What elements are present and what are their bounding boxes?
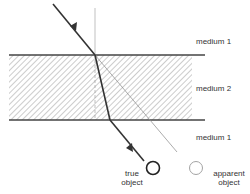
label-medium-middle: medium 2: [196, 84, 232, 93]
label-medium-bottom: medium 1: [196, 133, 232, 142]
exit-ray: [110, 120, 144, 161]
medium-2-slab: [9, 55, 192, 120]
label-apparent-object-2: object: [218, 178, 240, 187]
apparent-object: [190, 162, 203, 175]
label-true-object-2: object: [121, 178, 143, 187]
refraction-diagram: medium 1 medium 2 medium 1 true object a…: [0, 0, 250, 194]
label-apparent-object-1: apparent: [213, 169, 245, 178]
incident-ray: [53, 4, 95, 55]
label-true-object-1: true: [125, 169, 139, 178]
true-object: [147, 162, 160, 175]
label-medium-top: medium 1: [196, 37, 232, 46]
